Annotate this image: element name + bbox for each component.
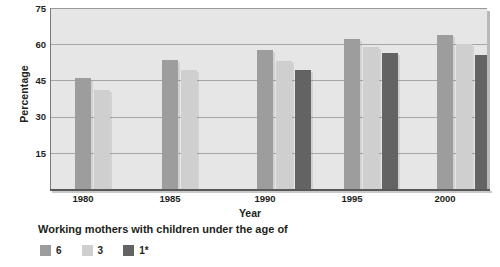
bar-1980-under-3 — [94, 90, 110, 189]
legend-item: 3 — [82, 245, 104, 256]
bar-1985-under-3 — [181, 70, 197, 189]
legend-swatch-icon — [40, 245, 51, 256]
y-axis-ticks: 75 60 45 30 15 — [12, 0, 46, 200]
legend: 6 3 1* — [40, 245, 149, 256]
bar-2000-under-1star — [475, 55, 487, 189]
y-tick-label-60: 60 — [35, 39, 46, 50]
plot-top-border — [50, 8, 487, 9]
legend-item-label: 6 — [56, 245, 62, 256]
y-tick-label-15: 15 — [35, 147, 46, 158]
bar-1995-under-1star — [382, 53, 398, 189]
y-tick-label-30: 30 — [35, 111, 46, 122]
bar-1995-under-3 — [363, 47, 379, 189]
bar-1985-under-6 — [162, 60, 178, 189]
legend-caption: Working mothers with children under the … — [38, 223, 288, 235]
x-tick-label-1985: 1985 — [159, 193, 180, 204]
bar-1990-under-3 — [276, 61, 292, 189]
legend-swatch-icon — [123, 245, 134, 256]
bar-1980-under-6 — [75, 78, 91, 189]
legend-item-label: 3 — [98, 245, 104, 256]
legend-item: 1* — [123, 245, 148, 256]
bar-1995-under-6 — [344, 39, 360, 189]
bar-2000-under-6 — [437, 35, 453, 189]
x-tick-label-1990: 1990 — [254, 193, 275, 204]
legend-swatch-icon — [82, 245, 93, 256]
legend-item: 6 — [40, 245, 62, 256]
x-axis-title: Year — [0, 207, 500, 219]
bar-2000-under-3 — [456, 44, 472, 189]
x-tick-label-1995: 1995 — [341, 193, 362, 204]
y-tick-label-45: 45 — [35, 75, 46, 86]
bar-chart-figure: Percentage 75 60 45 30 15 1980 1985 1990… — [0, 0, 500, 267]
y-axis-line — [50, 8, 51, 190]
plot-area — [50, 8, 487, 189]
y-tick-label-75: 75 — [35, 3, 46, 14]
x-axis-line — [50, 189, 490, 191]
x-tick-label-2000: 2000 — [434, 193, 455, 204]
bar-1990-under-6 — [257, 50, 273, 189]
gridline-60 — [50, 44, 487, 45]
bar-1990-under-1star — [295, 70, 311, 189]
legend-item-label: 1* — [139, 245, 148, 256]
x-tick-label-1980: 1980 — [72, 193, 93, 204]
